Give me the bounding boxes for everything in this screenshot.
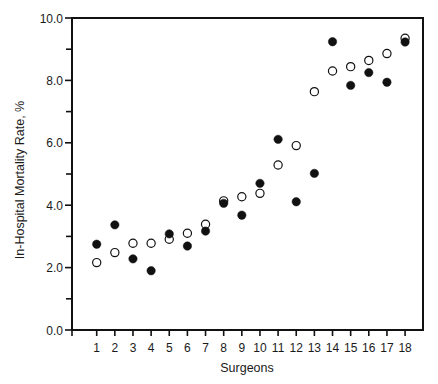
x-tick-label: 7 [202,341,209,355]
open-data-point [328,67,336,75]
open-data-point [93,259,101,267]
filled-data-point [274,135,282,143]
filled-data-point [401,38,409,46]
open-data-point [238,193,246,201]
x-tick-label: 8 [220,341,227,355]
filled-data-point [292,198,300,206]
y-tick-label: 2.0 [46,261,63,275]
x-tick-label: 11 [272,341,285,355]
x-tick-label: 15 [344,341,358,355]
filled-data-point [165,230,173,238]
open-data-point [256,189,264,197]
x-tick-label: 3 [130,341,137,355]
x-tick-label: 4 [148,341,155,355]
open-data-point [310,88,318,96]
filled-data-point [183,242,191,250]
scatter-chart: 0.02.04.06.08.010.0 12345678910111213141… [0,0,438,384]
x-tick-label: 1 [93,341,100,355]
x-tick-label: 2 [111,341,118,355]
x-tick-label: 12 [290,341,304,355]
x-tick-label: 10 [253,341,267,355]
open-data-point [183,229,191,237]
y-tick-label: 8.0 [46,74,63,88]
x-tick-label: 17 [380,341,394,355]
x-tick-label: 18 [398,341,412,355]
open-data-point [292,142,300,150]
x-tick-label: 14 [326,341,340,355]
x-tick-label: 9 [238,341,245,355]
filled-data-point [93,240,101,248]
filled-data-point [328,38,336,46]
filled-data-point [310,169,318,177]
x-tick-label: 6 [184,341,191,355]
filled-data-point [201,227,209,235]
open-data-point [383,49,391,57]
y-axis: 0.02.04.06.08.010.0 [40,12,72,338]
open-data-point [365,56,373,64]
x-tick-label: 16 [362,341,376,355]
open-data-point [147,239,155,247]
x-axis: 123456789101112131415161718 [72,330,412,355]
filled-data-point [129,255,137,263]
x-tick-label: 13 [308,341,322,355]
filled-data-point [365,68,373,76]
y-tick-label: 4.0 [46,199,63,213]
filled-data-point [238,211,246,219]
open-data-point [111,249,119,257]
open-data-point [129,239,137,247]
y-tick-label: 10.0 [40,12,64,26]
filled-data-point [111,221,119,229]
filled-data-point [383,78,391,86]
x-tick-label: 5 [166,341,173,355]
y-axis-title: In-Hospital Mortality Rate, % [13,101,27,259]
data-points [93,34,410,275]
x-axis-title: Surgeons [220,361,274,375]
filled-data-point [256,179,264,187]
filled-data-point [147,267,155,275]
y-tick-label: 0.0 [46,324,63,338]
open-data-point [347,63,355,71]
open-data-point [274,161,282,169]
y-tick-label: 6.0 [46,136,63,150]
filled-data-point [346,81,354,89]
filled-data-point [219,199,227,207]
